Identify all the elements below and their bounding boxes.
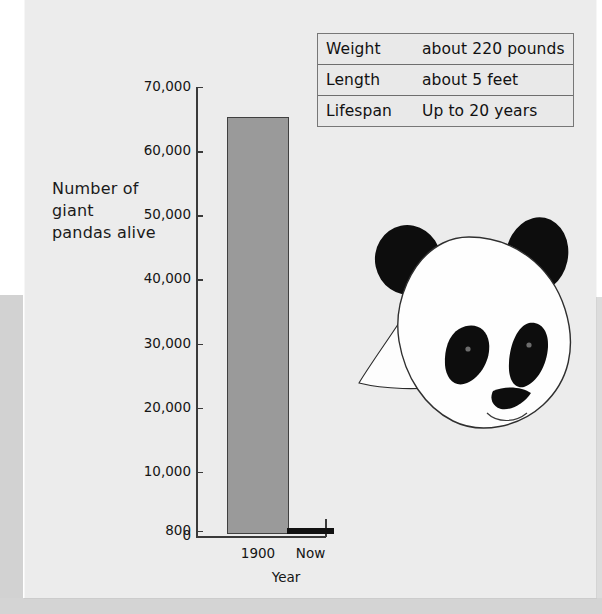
content-panel: Weight about 220 pounds Length about 5 f… [25,0,596,598]
panda-eye-right [526,342,531,347]
y-axis-tick: 40,000 [197,279,203,280]
y-tick-label: 20,000 [144,399,191,415]
y-axis-tick: 70,000 [197,87,203,88]
y-tick-label: 60,000 [144,142,191,158]
y-axis-tick: 30,000 [197,344,203,345]
y-tick-label: 30,000 [144,335,191,351]
bar-1900 [227,117,289,534]
y-axis-title: Number of giant pandas alive [52,178,157,244]
y-tick-label: 50,000 [144,206,191,222]
x-tick-label-now: Now [287,545,334,561]
x-axis-line [196,536,326,538]
y-axis-tick: 10,000 [197,472,203,473]
y-axis-line [196,87,198,537]
plot-area: 70,00060,00050,00040,00030,00020,00010,0… [196,87,326,536]
panda-head-illustration [353,213,601,441]
bar-now [287,528,334,534]
y-tick-label: 0 [182,527,191,543]
y-axis-tick: 50,000 [197,215,203,216]
y-axis-tick: 800 [197,531,203,532]
x-tick-label-1900: 1900 [227,545,289,561]
y-axis-tick: 20,000 [197,408,203,409]
y-axis-tick: 60,000 [197,151,203,152]
left-margin-band [0,295,23,614]
y-tick-label: 40,000 [144,270,191,286]
y-tick-label: 10,000 [144,463,191,479]
x-axis-title: Year [221,569,351,585]
y-tick-label: 70,000 [144,78,191,94]
y-axis-tick: 0 [197,536,203,537]
bottom-margin-band [0,598,602,614]
panda-eye-left [465,346,470,351]
